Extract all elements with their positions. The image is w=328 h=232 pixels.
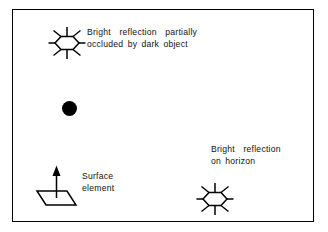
label-surface-line-2: element [82,183,114,193]
label-occluded-line-1: Bright reflection partially [87,27,197,37]
label-occluded-line-2: occluded by dark object [87,39,188,49]
label-surface-element: Surfaceelement [82,171,114,194]
dark-object-circle-icon [62,101,77,116]
sun-burst-icon-bottom [196,180,234,218]
label-surface-line-1: Surface [82,171,113,181]
label-horizon-line-2: on horizon [211,156,255,166]
normal-arrowhead-icon [53,166,61,177]
surface-element-icon [33,163,81,211]
label-horizon-reflection: Bright reflectionon horizon [211,144,281,167]
sun-burst-icon-top [48,24,86,62]
figure-canvas: Bright reflection partiallyoccluded by d… [0,0,328,232]
label-occluded-reflection: Bright reflection partiallyoccluded by d… [87,27,197,50]
label-horizon-line-1: Bright reflection [211,144,281,154]
